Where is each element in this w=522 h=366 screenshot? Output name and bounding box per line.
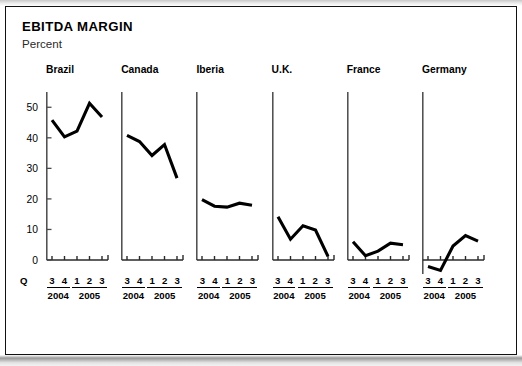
year-label: 2004 xyxy=(348,290,369,301)
y-tick-label: 20 xyxy=(27,193,38,204)
quarter-label: 3 xyxy=(325,275,330,286)
quarter-label: 1 xyxy=(300,275,305,286)
quarter-label: 3 xyxy=(200,275,205,286)
quarter-label: 3 xyxy=(175,275,180,286)
plot-area xyxy=(121,92,191,264)
quarter-label: 2 xyxy=(87,275,92,286)
year-group-rule xyxy=(273,287,296,288)
quarter-label: 3 xyxy=(400,275,405,286)
chart-subtitle: Percent xyxy=(22,37,62,50)
year-label: 2004 xyxy=(424,290,445,301)
data-line xyxy=(278,217,328,257)
chart-figure: EBITDA MARGIN Percent Q BrazilCanadaIber… xyxy=(0,0,522,366)
year-label: 2005 xyxy=(229,290,250,301)
y-tick-label: 40 xyxy=(27,132,38,143)
quarter-label: 1 xyxy=(74,275,79,286)
quarter-label: 2 xyxy=(312,275,317,286)
page-title: EBITDA MARGIN xyxy=(22,19,133,34)
quarter-label: 2 xyxy=(388,275,393,286)
data-line xyxy=(428,236,478,271)
quarter-label: 4 xyxy=(212,275,217,286)
year-group-rule xyxy=(348,287,371,288)
year-label: 2005 xyxy=(79,290,100,301)
year-group-rule xyxy=(448,287,483,288)
quarter-label: 3 xyxy=(250,275,255,286)
data-line xyxy=(353,242,403,256)
bottom-bevel-band xyxy=(0,355,522,366)
data-line xyxy=(127,135,177,178)
quarter-label: 3 xyxy=(350,275,355,286)
year-label: 2005 xyxy=(304,290,325,301)
year-group-rule xyxy=(197,287,220,288)
plot-area xyxy=(46,92,116,264)
year-group-rule xyxy=(222,287,257,288)
plot-area xyxy=(196,92,266,264)
y-tick-label: 50 xyxy=(27,102,38,113)
y-tick-label: 0 xyxy=(32,255,38,266)
plot-area xyxy=(422,92,492,278)
data-line xyxy=(52,103,102,137)
quarter-label: 1 xyxy=(225,275,230,286)
year-group-rule xyxy=(122,287,145,288)
year-label: 2004 xyxy=(198,290,219,301)
quarter-label: 3 xyxy=(475,275,480,286)
quarter-label: 3 xyxy=(275,275,280,286)
x-axis-labels: 3412320042005 xyxy=(121,275,183,305)
x-axis-labels: 3412320042005 xyxy=(422,275,484,305)
plot-area xyxy=(272,92,342,264)
y-tick-label: 30 xyxy=(27,163,38,174)
quarter-label: 4 xyxy=(438,275,443,286)
year-label: 2005 xyxy=(455,290,476,301)
quarter-label: 3 xyxy=(125,275,130,286)
year-label: 2004 xyxy=(273,290,294,301)
quarter-label: 4 xyxy=(137,275,142,286)
quarter-label: 3 xyxy=(99,275,104,286)
quarter-label: 2 xyxy=(463,275,468,286)
x-axis-labels: 3412320042005 xyxy=(347,275,409,305)
year-label: 2005 xyxy=(154,290,175,301)
x-axis-labels: 3412320042005 xyxy=(46,275,108,305)
q-axis-label: Q xyxy=(20,275,27,286)
year-group-rule xyxy=(373,287,408,288)
year-group-rule xyxy=(47,287,70,288)
quarter-label: 1 xyxy=(450,275,455,286)
quarter-label: 1 xyxy=(150,275,155,286)
quarter-label: 3 xyxy=(425,275,430,286)
quarter-label: 3 xyxy=(49,275,54,286)
plot-area xyxy=(347,92,417,264)
year-group-rule xyxy=(72,287,107,288)
data-line xyxy=(202,200,252,208)
year-group-rule xyxy=(298,287,333,288)
year-group-rule xyxy=(423,287,446,288)
year-group-rule xyxy=(147,287,182,288)
year-label: 2004 xyxy=(123,290,144,301)
x-axis-labels: 3412320042005 xyxy=(196,275,258,305)
year-label: 2004 xyxy=(48,290,69,301)
quarter-label: 2 xyxy=(162,275,167,286)
quarter-label: 1 xyxy=(375,275,380,286)
quarter-label: 4 xyxy=(363,275,368,286)
y-tick-label: 10 xyxy=(27,224,38,235)
quarter-label: 4 xyxy=(287,275,292,286)
quarter-label: 2 xyxy=(237,275,242,286)
x-axis-labels: 3412320042005 xyxy=(272,275,334,305)
quarter-label: 4 xyxy=(62,275,67,286)
year-label: 2005 xyxy=(380,290,401,301)
